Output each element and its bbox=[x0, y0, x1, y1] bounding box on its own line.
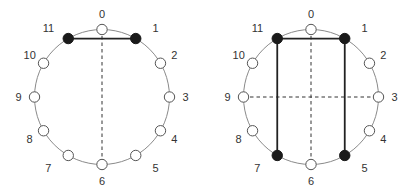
open-node bbox=[373, 92, 383, 102]
right-diagram: 01234567891011 bbox=[224, 8, 397, 187]
open-node bbox=[38, 58, 48, 68]
open-node bbox=[97, 24, 107, 34]
filled-node bbox=[272, 150, 282, 160]
node-label: 11 bbox=[252, 22, 263, 34]
node-label: 7 bbox=[254, 162, 260, 174]
node-label: 4 bbox=[171, 133, 177, 145]
node-label: 10 bbox=[233, 49, 245, 61]
node-label: 2 bbox=[171, 49, 177, 61]
node-label: 9 bbox=[15, 91, 21, 103]
node-label: 3 bbox=[182, 91, 188, 103]
node-label: 10 bbox=[24, 49, 36, 61]
node-label: 7 bbox=[45, 162, 51, 174]
node-label: 5 bbox=[153, 162, 159, 174]
open-node bbox=[155, 126, 165, 136]
open-node bbox=[38, 126, 48, 136]
filled-node bbox=[63, 33, 73, 43]
open-node bbox=[155, 58, 165, 68]
filled-node bbox=[340, 33, 350, 43]
open-node bbox=[247, 126, 257, 136]
node-label: 11 bbox=[43, 22, 54, 34]
diagram-canvas: 01234567891011 01234567891011 bbox=[0, 0, 411, 191]
open-node bbox=[306, 159, 316, 169]
open-node bbox=[364, 58, 374, 68]
open-node bbox=[238, 92, 248, 102]
node-label: 6 bbox=[99, 175, 105, 187]
node-label: 6 bbox=[308, 175, 314, 187]
filled-node bbox=[272, 33, 282, 43]
node-label: 0 bbox=[308, 8, 314, 20]
open-node bbox=[247, 58, 257, 68]
node-label: 3 bbox=[391, 91, 397, 103]
open-node bbox=[164, 92, 174, 102]
open-node bbox=[63, 150, 73, 160]
node-label: 4 bbox=[380, 133, 386, 145]
node-label: 5 bbox=[362, 162, 368, 174]
open-node bbox=[97, 159, 107, 169]
open-node bbox=[131, 150, 141, 160]
open-node bbox=[29, 92, 39, 102]
open-node bbox=[306, 24, 316, 34]
node-label: 9 bbox=[224, 91, 230, 103]
node-label: 0 bbox=[99, 8, 105, 20]
node-label: 8 bbox=[27, 133, 33, 145]
open-node bbox=[364, 126, 374, 136]
filled-node bbox=[131, 33, 141, 43]
node-label: 8 bbox=[236, 133, 242, 145]
left-diagram: 01234567891011 bbox=[15, 8, 188, 187]
node-label: 2 bbox=[380, 49, 386, 61]
filled-node bbox=[340, 150, 350, 160]
node-label: 1 bbox=[153, 22, 159, 34]
node-label: 1 bbox=[362, 22, 368, 34]
